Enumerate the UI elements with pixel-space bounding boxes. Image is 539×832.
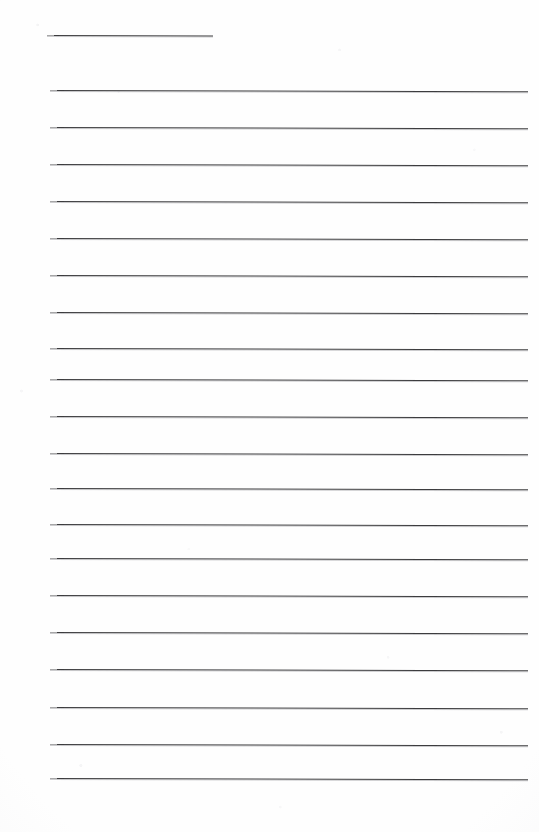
body-rule-16 <box>50 632 528 634</box>
body-rule-9 <box>50 379 528 381</box>
body-rule-2 <box>50 127 528 129</box>
body-rule-18 <box>50 707 528 709</box>
body-rule-10 <box>50 416 528 418</box>
body-rule-13 <box>50 524 528 526</box>
body-rule-7 <box>50 312 528 314</box>
notebook-page <box>0 0 539 832</box>
body-rule-5 <box>50 238 528 240</box>
body-rule-19 <box>50 744 528 746</box>
body-rule-12 <box>50 488 528 490</box>
body-rule-17 <box>50 669 528 671</box>
body-rule-15 <box>50 595 528 597</box>
body-rule-20 <box>50 778 528 780</box>
body-rule-11 <box>50 453 528 455</box>
body-rule-4 <box>50 201 528 203</box>
body-rule-3 <box>50 164 528 166</box>
body-rule-8 <box>50 348 528 350</box>
body-rule-14 <box>50 558 528 560</box>
body-rule-1 <box>50 90 528 92</box>
body-rule-6 <box>50 275 528 277</box>
title-rule <box>47 35 213 37</box>
